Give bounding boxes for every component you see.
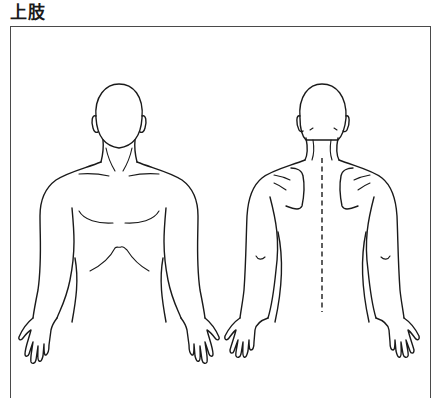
back-right-inner-arm (366, 197, 376, 318)
front-left-clavicle (79, 174, 109, 176)
front-ribcage (90, 247, 149, 271)
back-right-hand (376, 318, 419, 357)
front-left-shoulder-arm (33, 162, 101, 318)
back-right-scapula (340, 168, 358, 209)
front-left-inner-arm (57, 208, 74, 318)
front-view-figure (19, 84, 219, 363)
back-right-elbow-mark (381, 256, 390, 259)
back-left-inner-arm (268, 197, 278, 318)
front-head (96, 84, 142, 148)
back-view-figure (225, 84, 419, 357)
front-left-hand (19, 318, 57, 363)
back-head-base-right (334, 128, 337, 130)
front-neck-muscle-right (123, 148, 132, 171)
back-left-hand (225, 318, 268, 357)
back-head (300, 84, 346, 140)
front-neck-left (101, 140, 103, 162)
back-neck-muscle-right (330, 140, 332, 160)
back-neck-muscle-left (312, 140, 314, 160)
back-neck-left (305, 138, 307, 160)
front-left-pec (79, 211, 113, 223)
front-right-inner-arm (164, 208, 181, 318)
front-right-pec (125, 211, 159, 223)
back-left-elbow-mark (256, 256, 265, 259)
back-neck-right (337, 138, 339, 160)
front-neck-right (135, 140, 137, 162)
front-right-clavicle (129, 174, 159, 176)
back-left-scapula-lines (274, 175, 290, 190)
back-right-scapula-lines (354, 175, 370, 190)
front-right-shoulder-arm (137, 162, 205, 318)
back-head-base-left (310, 128, 313, 130)
back-left-scapula (286, 168, 304, 209)
front-neck-muscle-left (106, 148, 115, 171)
front-right-hand (181, 318, 219, 363)
